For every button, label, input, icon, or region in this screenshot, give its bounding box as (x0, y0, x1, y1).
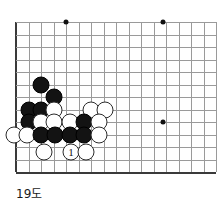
diagram-caption: 19도 (16, 184, 42, 201)
go-board[interactable]: 1 (0, 0, 217, 185)
grid-line-vertical (216, 22, 217, 172)
grid-line-horizontal (16, 47, 216, 48)
grid-line-horizontal (16, 60, 216, 61)
grid-line-horizontal (16, 72, 216, 73)
grid-line-horizontal (16, 22, 216, 23)
stone-move-number: 1 (64, 145, 79, 160)
stone-white[interactable] (78, 144, 95, 161)
stone-white[interactable] (90, 126, 107, 143)
go-diagram-root: 1 19도 (0, 0, 217, 210)
board-edge-bottom (16, 172, 216, 174)
star-point (160, 20, 165, 25)
star-point (64, 20, 69, 25)
stone-white[interactable] (35, 144, 52, 161)
grid-line-horizontal (16, 35, 216, 36)
star-point (160, 120, 165, 125)
